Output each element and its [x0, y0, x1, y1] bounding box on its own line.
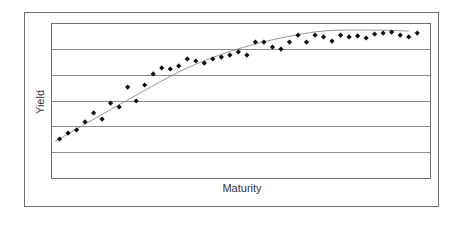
data-point-marker	[134, 98, 139, 103]
data-point-marker	[278, 46, 283, 51]
data-point-marker	[57, 136, 62, 141]
data-point-marker	[304, 40, 309, 45]
fitted-curve	[55, 30, 408, 141]
data-point-marker	[236, 49, 241, 54]
data-point-marker	[159, 65, 164, 70]
gridlines	[51, 50, 430, 153]
data-point-marker	[406, 34, 411, 39]
data-point-marker	[82, 119, 87, 124]
data-point-marker	[227, 52, 232, 57]
data-point-marker	[398, 33, 403, 38]
data-point-marker	[329, 38, 334, 43]
data-point-marker	[364, 35, 369, 40]
data-point-marker	[287, 40, 292, 45]
data-point-marker	[185, 56, 190, 61]
data-point-marker	[142, 82, 147, 87]
data-point-marker	[355, 33, 360, 38]
data-point-marker	[91, 110, 96, 115]
data-point-marker	[295, 33, 300, 38]
data-point-marker	[312, 33, 317, 38]
data-point-marker	[321, 34, 326, 39]
data-point-marker	[253, 40, 258, 45]
data-point-marker	[415, 30, 420, 35]
data-point-marker	[372, 32, 377, 37]
data-point-marker	[270, 44, 275, 49]
data-points	[57, 29, 420, 141]
data-point-marker	[338, 33, 343, 38]
y-axis-label: Yield	[34, 90, 46, 114]
data-point-marker	[168, 66, 173, 71]
x-axis-label: Maturity	[222, 182, 261, 194]
data-point-marker	[193, 58, 198, 63]
data-point-marker	[346, 34, 351, 39]
data-point-marker	[100, 117, 105, 122]
data-point-marker	[176, 63, 181, 68]
data-point-marker	[244, 52, 249, 57]
data-point-marker	[381, 30, 386, 35]
data-point-marker	[125, 84, 130, 89]
data-point-marker	[261, 40, 266, 45]
data-point-marker	[117, 104, 122, 109]
